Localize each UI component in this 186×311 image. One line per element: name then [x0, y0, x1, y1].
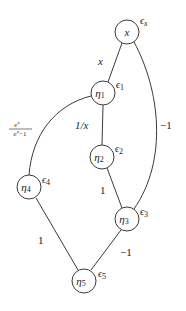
edge-eta1-eta2 — [102, 105, 103, 145]
node-eta1: η1 ϵ1 — [91, 79, 124, 105]
epsilon-2-label: ϵ2 — [115, 143, 123, 156]
weight-eta3-eta5: −1 — [120, 246, 132, 258]
weight-x-eta1: x — [97, 55, 103, 67]
edge-x-eta1 — [108, 43, 122, 82]
node-x-label: x — [124, 26, 130, 38]
weight-eta1-eta2: 1/x — [75, 119, 89, 131]
node-eta4: η4 ϵ4 — [17, 174, 50, 199]
edge-eta3-eta5 — [91, 230, 121, 270]
computational-graph: x ϵx η1 ϵ1 η2 ϵ2 η3 ϵ3 η4 ϵ4 η5 ϵ5 x −1 … — [0, 0, 186, 311]
epsilon-5-label: ϵ5 — [98, 268, 106, 281]
weight-eta2-eta3: 1 — [100, 184, 106, 196]
node-eta5: η5 ϵ5 — [72, 268, 106, 293]
weight-eta1-eta4-fraction: ex ex−1 — [9, 120, 32, 138]
node-eta3: η3 ϵ3 — [115, 206, 148, 231]
svg-text:ex−1: ex−1 — [14, 129, 27, 138]
edge-eta2-eta3 — [107, 168, 122, 208]
weight-x-eta3: −1 — [160, 119, 172, 131]
node-x: x ϵx — [115, 15, 148, 44]
edge-x-eta3 — [134, 42, 157, 209]
svg-text:ex: ex — [14, 120, 20, 129]
epsilon-1-label: ϵ1 — [116, 79, 124, 92]
weight-eta4-eta5: 1 — [38, 234, 44, 246]
edge-eta1-eta4 — [29, 96, 91, 175]
epsilon-3-label: ϵ3 — [140, 206, 148, 219]
epsilon-x-label: ϵx — [140, 15, 148, 28]
epsilon-4-label: ϵ4 — [42, 174, 50, 187]
node-eta2: η2 ϵ2 — [90, 143, 123, 169]
